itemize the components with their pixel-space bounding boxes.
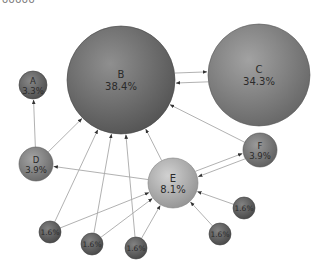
edge-n1-to-E — [60, 193, 149, 228]
node-n3[interactable]: 1.6% — [125, 237, 147, 259]
edge-B-to-C — [175, 72, 207, 73]
nodes-layer: B38.4%C34.3%A3.3%D3.9%E8.1%F3.9%1.6%1.6%… — [19, 24, 310, 259]
edge-D-to-B — [48, 119, 82, 152]
node-percent-label: 3.3% — [22, 86, 44, 96]
node-percent-label: 1.6% — [40, 228, 59, 237]
node-percent-label: 1.6% — [234, 204, 253, 213]
node-F[interactable]: F3.9% — [243, 133, 277, 167]
node-name-label: F — [258, 141, 263, 151]
node-B[interactable]: B38.4% — [67, 26, 175, 134]
edge-n3-to-E — [141, 206, 160, 239]
edge-n4-to-E — [198, 192, 234, 205]
node-C[interactable]: C34.3% — [208, 24, 310, 126]
node-circle[interactable] — [208, 24, 310, 126]
node-D[interactable]: D3.9% — [19, 147, 53, 181]
node-percent-label: 3.9% — [249, 151, 271, 161]
node-percent-label: 38.4% — [105, 81, 137, 92]
edge-n5-to-E — [191, 202, 213, 226]
node-percent-label: 34.3% — [243, 76, 275, 87]
node-percent-label: 3.9% — [25, 165, 47, 175]
node-n2[interactable]: 1.6% — [81, 233, 103, 255]
edge-D-to-A — [34, 100, 36, 147]
node-percent-label: 1.6% — [82, 240, 101, 249]
edge-n3-to-B — [126, 135, 135, 237]
node-name-label: E — [170, 173, 176, 184]
edge-C-to-B — [176, 82, 208, 83]
node-E[interactable]: E8.1% — [148, 158, 198, 208]
node-circle[interactable] — [67, 26, 175, 134]
edge-n2-to-B — [94, 134, 112, 233]
node-percent-label: 1.6% — [210, 230, 229, 239]
node-A[interactable]: A3.3% — [19, 71, 47, 99]
node-name-label: D — [33, 155, 40, 165]
node-name-label: C — [256, 64, 263, 75]
edge-E-to-D — [54, 166, 148, 179]
edge-n1-to-B — [55, 130, 98, 222]
node-n5[interactable]: 1.6% — [209, 223, 231, 245]
node-n1[interactable]: 1.6% — [39, 221, 61, 243]
node-name-label: A — [30, 76, 36, 86]
node-n4[interactable]: 1.6% — [233, 197, 255, 219]
edge-n2-to-E — [101, 199, 152, 238]
edge-E-to-B — [146, 129, 162, 161]
node-percent-label: 1.6% — [126, 244, 145, 253]
network-graph: B38.4%C34.3%A3.3%D3.9%E8.1%F3.9%1.6%1.6%… — [0, 0, 324, 271]
node-percent-label: 8.1% — [160, 184, 185, 195]
node-name-label: B — [118, 69, 125, 80]
